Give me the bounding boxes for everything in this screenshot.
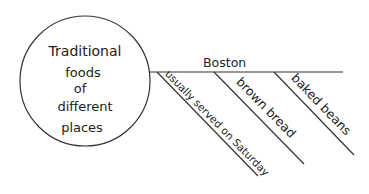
detail-label: baked beans (288, 70, 354, 138)
central-topic-line-1: Traditional (48, 43, 122, 59)
central-topic-line-3: of (74, 81, 87, 96)
detail-baked-beans: baked beans (274, 70, 354, 155)
detail-brown-bread: brown bread (214, 72, 304, 164)
detail-label: usually served on Saturday (163, 68, 272, 179)
central-topic-line-5: places (61, 120, 103, 135)
food-web-diagram: Traditional foods of different places Bo… (0, 0, 369, 194)
central-topic: Traditional foods of different places (20, 16, 150, 146)
branch-boston: Boston usually served on Saturday brown … (150, 55, 354, 178)
svg-text:Traditional: Traditional (48, 43, 122, 59)
branch-label: Boston (203, 55, 246, 70)
svg-text:places: places (61, 120, 103, 135)
svg-text:different: different (57, 99, 112, 114)
central-topic-line-4: different (57, 99, 112, 114)
detail-line (214, 72, 304, 164)
svg-text:of: of (74, 81, 87, 96)
detail-label: brown bread (233, 74, 299, 141)
central-topic-line-2: foods (65, 65, 101, 80)
svg-text:foods: foods (65, 65, 101, 80)
